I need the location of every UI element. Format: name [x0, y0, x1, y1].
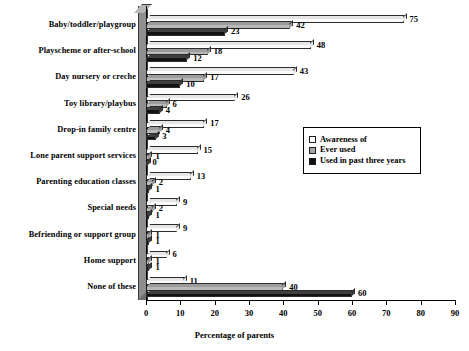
bar-top-face	[147, 28, 227, 32]
category-label-lone-parent-support-services: Lone parent support services	[30, 152, 136, 160]
value-label-2-3: 4	[166, 105, 170, 115]
bar-2-10	[146, 292, 352, 297]
x-tick-60	[352, 300, 353, 305]
bar-end-face	[310, 40, 314, 49]
value-label-0-6: 13	[197, 171, 206, 181]
value-label-0-4: 17	[210, 118, 219, 128]
category-label-parenting-education-classes: Parenting education classes	[36, 178, 136, 186]
value-label-0-8: 9	[183, 223, 187, 233]
x-tick-0	[146, 300, 147, 305]
category-label-drop-in-family-centre: Drop-in family centre	[57, 126, 136, 134]
value-label-2-2: 10	[186, 79, 195, 89]
bar-top-face	[147, 172, 193, 176]
value-label-1-0: 42	[296, 20, 305, 30]
legend-swatch-icon-awareness-of	[309, 136, 316, 143]
x-tick-10	[180, 300, 181, 305]
value-label-2-9: 1	[155, 262, 159, 272]
value-label-2-10: 60	[358, 288, 367, 298]
value-label-0-7: 9	[183, 197, 187, 207]
bar-end-face	[203, 72, 207, 81]
bar-end-face	[179, 79, 183, 88]
legend-item-awareness-of: Awareness of	[309, 136, 416, 144]
bar-top-face	[147, 283, 286, 287]
bar-top-face	[147, 146, 200, 150]
bar-top-face	[147, 198, 179, 202]
bar-end-face	[155, 131, 159, 140]
bar-end-face	[190, 171, 194, 180]
x-tick-label-60: 60	[348, 308, 357, 318]
x-tick-label-40: 40	[279, 308, 288, 318]
bar-end-face	[234, 92, 238, 101]
value-label-0-1: 48	[317, 40, 326, 50]
bar-2-4	[146, 135, 156, 140]
bar-end-face	[186, 52, 190, 61]
bar-end-face	[176, 197, 180, 206]
bar-2-0	[146, 30, 225, 35]
bar-top-face	[147, 290, 354, 294]
value-label-0-3: 26	[241, 92, 250, 102]
x-tick-label-90: 90	[451, 308, 460, 318]
bar-top-face	[147, 48, 210, 52]
category-label-befriending-or-support-group: Befriending or support group	[29, 230, 136, 238]
bar-end-face	[403, 14, 407, 23]
value-label-0-0: 75	[410, 14, 419, 24]
category-label-none-of-these: None of these	[87, 283, 136, 291]
legend-label-ever-used: Ever used	[320, 146, 355, 154]
category-label-special-needs: Special needs	[87, 204, 136, 212]
bar-end-face	[148, 262, 152, 271]
x-tick-label-0: 0	[144, 308, 148, 318]
value-label-0-5: 15	[204, 145, 213, 155]
category-label-toy-library-playbus: Toy library/playbus	[64, 99, 136, 107]
x-axis-title: Percentage of parents	[0, 330, 469, 340]
bar-top-face	[147, 120, 207, 124]
value-label-0-9: 6	[173, 249, 177, 259]
bar-end-face	[148, 183, 152, 192]
bar-top-face	[147, 277, 186, 281]
legend-item-used-in-past-three-years: Used in past three years	[309, 157, 416, 165]
bar-top-face	[147, 94, 238, 98]
x-tick-20	[215, 300, 216, 305]
bar-2-8	[146, 240, 149, 245]
value-label-2-5: 0	[153, 157, 157, 167]
value-label-2-4: 3	[162, 131, 166, 141]
bar-2-3	[146, 109, 160, 114]
bar-2-1	[146, 57, 187, 62]
category-label-playscheme-or-after-school: Playscheme or after-school	[38, 47, 136, 55]
x-tick-label-70: 70	[382, 308, 391, 318]
x-tick-label-80: 80	[416, 308, 425, 318]
x-tick-label-20: 20	[210, 308, 219, 318]
value-label-2-8: 1	[155, 236, 159, 246]
x-tick-90	[455, 300, 456, 305]
x-tick-30	[249, 300, 250, 305]
value-label-0-2: 43	[300, 66, 309, 76]
x-tick-70	[386, 300, 387, 305]
category-label-day-nursery-or-creche: Day nursery or creche	[55, 73, 136, 81]
value-label-1-1: 18	[214, 46, 223, 56]
bar-end-face	[282, 282, 286, 291]
bar-2-5	[146, 161, 148, 166]
value-label-2-7: 1	[155, 210, 159, 220]
legend-label-awareness-of: Awareness of	[320, 136, 367, 144]
value-label-2-1: 12	[193, 53, 202, 63]
value-label-2-0: 23	[231, 26, 240, 36]
category-axis-labels: Baby/toddler/playgroupPlayscheme or afte…	[0, 0, 140, 300]
category-label-home-support: Home support	[84, 257, 136, 265]
value-label-2-6: 1	[155, 184, 159, 194]
bar-0-5	[146, 149, 198, 154]
x-axis-line	[146, 300, 455, 301]
legend: Awareness of Ever used Used in past thre…	[303, 127, 421, 174]
bar-end-face	[289, 20, 293, 29]
bar-end-face	[224, 26, 228, 35]
bar-top-face	[147, 15, 406, 19]
x-tick-label-10: 10	[176, 308, 185, 318]
x-tick-label-50: 50	[313, 308, 322, 318]
bar-top-face	[147, 21, 293, 25]
bar-2-9	[146, 266, 149, 271]
bar-2-2	[146, 83, 180, 88]
bar-top-face	[147, 67, 296, 71]
value-label-1-3: 6	[173, 99, 177, 109]
x-tick-50	[318, 300, 319, 305]
legend-swatch-icon-used-in-past-three-years	[309, 158, 316, 165]
bar-top-face	[147, 41, 313, 45]
category-label-baby-toddler-playgroup: Baby/toddler/playgroup	[49, 21, 136, 29]
